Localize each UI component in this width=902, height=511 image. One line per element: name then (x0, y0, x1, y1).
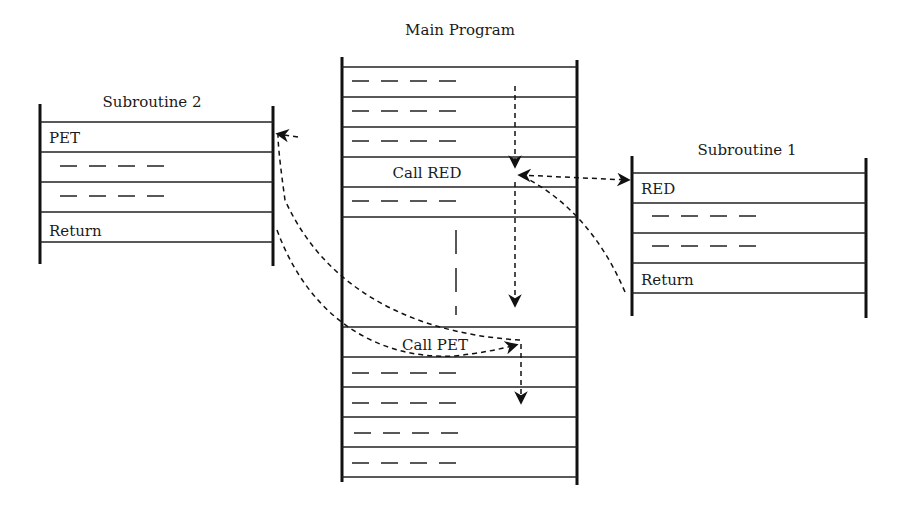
flow-sub2-return (277, 230, 516, 356)
subroutine-2-title: Subroutine 2 (102, 93, 201, 111)
main-row-call-pet: Call PET (402, 336, 468, 354)
sub1-row-return: Return (641, 271, 694, 289)
flow-call-red-to-sub1 (520, 175, 628, 180)
subroutine-1-title: Subroutine 1 (697, 141, 796, 159)
sub1-row-red: RED (641, 180, 675, 198)
main-program-title: Main Program (405, 21, 515, 39)
flow-sub1-return (522, 176, 625, 292)
main-program-block: Main Program Call RED Call PET (342, 21, 577, 485)
subroutine-1-block: Subroutine 1 RED Return (632, 141, 866, 318)
flow-sub2-entry-arrowhead (278, 134, 298, 137)
sub2-row-return: Return (49, 222, 102, 240)
main-row-dividers (342, 67, 577, 477)
main-row-call-red: Call RED (392, 164, 461, 182)
sub2-row-pet: PET (49, 129, 80, 147)
subroutine-call-diagram: Main Program Call RED Call PET (0, 0, 902, 511)
flow-arrows (277, 86, 628, 402)
subroutine-2-block: Subroutine 2 PET Return (40, 93, 273, 266)
